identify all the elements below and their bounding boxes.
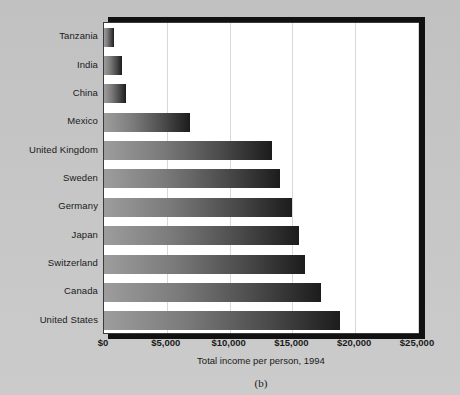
y-axis-label-japan: Japan	[0, 229, 98, 240]
bar	[104, 283, 321, 302]
bar-row	[104, 165, 418, 193]
bar	[104, 226, 299, 245]
bar-row	[104, 108, 418, 136]
y-axis-label-tanzania: Tanzania	[0, 30, 98, 41]
bar-row	[104, 23, 418, 51]
x-axis-tick-0: $0	[98, 337, 109, 348]
figure-caption: (b)	[103, 377, 419, 389]
chart-figure: TanzaniaIndiaChinaMexicoUnited KingdomSw…	[0, 0, 460, 395]
bar-row	[104, 136, 418, 164]
bar-row	[104, 278, 418, 306]
bar-row	[104, 51, 418, 79]
y-axis-label-canada: Canada	[0, 285, 98, 296]
y-axis-label-sweden: Sweden	[0, 172, 98, 183]
x-axis-tick-10000: $10,000	[211, 337, 245, 348]
gridline-25000	[418, 23, 419, 333]
bar-row	[104, 193, 418, 221]
bar	[104, 56, 122, 75]
x-axis-tick-25000: $25,000	[400, 337, 434, 348]
bar	[104, 113, 190, 132]
y-axis-label-switzerland: Switzerland	[0, 257, 98, 268]
bar	[104, 311, 340, 330]
y-axis-label-india: India	[0, 59, 98, 70]
x-axis-title: Total income per person, 1994	[103, 355, 419, 366]
bar-series	[104, 23, 418, 333]
bar-row	[104, 307, 418, 335]
y-axis-category-labels: TanzaniaIndiaChinaMexicoUnited KingdomSw…	[0, 22, 98, 334]
bar	[104, 84, 126, 103]
y-axis-label-mexico: Mexico	[0, 115, 98, 126]
x-axis-tick-5000: $5,000	[151, 337, 180, 348]
x-axis-tick-15000: $15,000	[274, 337, 308, 348]
x-axis-tick-20000: $20,000	[337, 337, 371, 348]
y-axis-label-china: China	[0, 87, 98, 98]
y-axis-label-united-states: United States	[0, 314, 98, 325]
bar	[104, 169, 280, 188]
bar-row	[104, 80, 418, 108]
y-axis-label-united-kingdom: United Kingdom	[0, 144, 98, 155]
bar	[104, 255, 305, 274]
x-axis-tick-labels: $0$5,000$10,000$15,000$20,000$25,000	[0, 337, 460, 351]
bar	[104, 141, 272, 160]
bar-row	[104, 222, 418, 250]
bar-row	[104, 250, 418, 278]
bar	[104, 28, 114, 47]
plot-area	[103, 22, 419, 334]
y-axis-label-germany: Germany	[0, 200, 98, 211]
bar	[104, 198, 292, 217]
